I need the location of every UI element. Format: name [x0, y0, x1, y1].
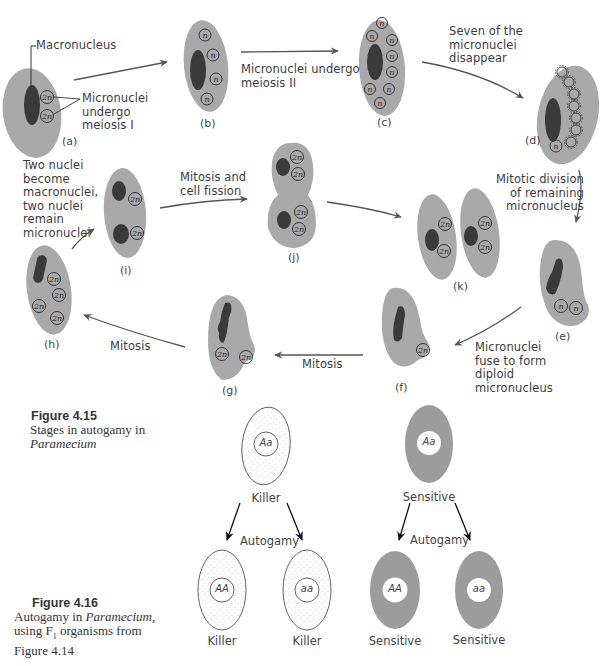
stage-label-k: (k) [453, 280, 468, 293]
stage-label-i: (i) [120, 264, 132, 277]
svg-text:n: n [380, 19, 385, 28]
label-two-nuclei: Two nuclei become macronuclei, two nucle… [23, 159, 98, 240]
genotype-parent-killer: Aa [256, 437, 276, 448]
genotype-parent-sensitive: Aa [419, 436, 439, 447]
genotype-offspring-2: aa [295, 583, 319, 594]
figure-4-15-caption-line1: Stages in autogamy in [30, 423, 145, 437]
cell-stage-c: nn nn nn nn [356, 18, 409, 118]
label-mitosis-fission: Mitosis and cell fission [180, 171, 246, 198]
svg-text:n: n [370, 32, 375, 41]
svg-text:n: n [558, 302, 563, 311]
cell-stage-f: 2n [382, 288, 430, 367]
svg-text:2n: 2n [33, 302, 44, 311]
svg-text:n: n [368, 85, 373, 94]
svg-text:2n: 2n [291, 153, 302, 162]
cell-stage-d: n [528, 60, 607, 170]
label-seven-disappear: Seven of the micronuclei disappear [449, 25, 523, 66]
svg-text:n: n [210, 51, 215, 60]
svg-text:2n: 2n [479, 243, 490, 252]
svg-text:n: n [390, 68, 395, 77]
phenotype-offspring-4: Sensitive [448, 633, 510, 647]
svg-text:2n: 2n [41, 112, 52, 121]
svg-text:2n: 2n [51, 314, 62, 323]
svg-text:n: n [573, 304, 578, 313]
svg-text:2n: 2n [439, 220, 450, 229]
svg-text:n: n [390, 52, 395, 61]
svg-text:n: n [202, 31, 207, 40]
svg-text:n: n [213, 75, 218, 84]
cell-stage-h: 2n2n 2n2n [21, 242, 77, 337]
phenotype-offspring-1: Killer [199, 634, 245, 648]
cell-stage-j: 2n2n 2n2n [268, 143, 316, 248]
genotype-offspring-4: aa [467, 583, 491, 594]
svg-text:n: n [390, 36, 395, 45]
svg-text:n: n [378, 99, 383, 108]
stage-label-d: (d) [525, 134, 541, 147]
label-meiosis-2: Micronuclei undergo meiosis II [241, 63, 360, 90]
stage-label-b: (b) [200, 117, 216, 130]
stage-label-f: (f) [395, 381, 407, 394]
svg-text:2n: 2n [240, 353, 251, 362]
svg-text:2n: 2n [438, 247, 449, 256]
label-fuse-diploid: Micronuclei fuse to form diploid micronu… [475, 341, 553, 395]
arrow-killer-to-AA [227, 503, 240, 540]
phenotype-parent-sensitive: Sensitive [398, 490, 460, 504]
cell-stage-i: 2n2n [101, 167, 149, 260]
svg-text:2n: 2n [292, 170, 303, 179]
cell-stage-g: 2n2n [208, 295, 255, 380]
svg-text:2n: 2n [53, 291, 64, 300]
arrow-j-to-k [327, 202, 401, 217]
genotype-offspring-1: AA [210, 583, 234, 594]
label-macronucleus: Macronucleus [36, 39, 116, 53]
arrow-sensitive-to-AA [399, 503, 410, 540]
label-mitosis-f-g: Mitosis [302, 358, 343, 372]
svg-text:2n: 2n [216, 350, 227, 359]
figure-4-16-caption-line3: Figure 4.14 [14, 644, 155, 658]
svg-text:2n: 2n [41, 93, 52, 102]
figure-4-16-caption-line1: Autogamy in [14, 609, 86, 624]
arrow-b-to-c [241, 51, 338, 52]
cell-stage-k: 2n2n 2n2n [412, 186, 505, 282]
figure-4-16-caption-italic: Paramecium, [86, 609, 156, 624]
label-autogamy-sensitive: Autogamy [410, 533, 469, 547]
svg-text:2n: 2n [293, 225, 304, 234]
svg-text:2n: 2n [479, 219, 490, 228]
svg-text:n: n [204, 95, 209, 104]
arrow-c-to-d [422, 62, 523, 98]
arrow-i-to-j [160, 199, 247, 208]
stage-label-c: (c) [377, 116, 392, 129]
figure-4-16-caption-line2b: organisms from [57, 623, 142, 638]
phenotype-parent-killer: Killer [243, 491, 289, 505]
label-mitosis-g-h: Mitosis [110, 340, 151, 354]
stage-label-j: (j) [288, 251, 300, 264]
svg-text:2n: 2n [129, 195, 140, 204]
genotype-offspring-3: AA [383, 583, 407, 594]
figure-4-15-caption: Figure 4.15 Stages in autogamy in Parame… [30, 409, 145, 451]
stage-label-e: (e) [555, 330, 570, 343]
phenotype-offspring-3: Sensitive [364, 634, 426, 648]
phenotype-offspring-2: Killer [284, 634, 330, 648]
svg-text:2n: 2n [48, 275, 59, 284]
svg-text:n: n [387, 85, 392, 94]
arrow-a-to-b [74, 62, 167, 80]
stage-label-a: (a) [62, 135, 77, 148]
label-autogamy-killer: Autogamy [240, 534, 299, 548]
cell-stage-b: nn nn [179, 18, 232, 114]
figure-4-15-caption-line2: Paramecium [30, 436, 96, 451]
svg-text:2n: 2n [295, 208, 306, 217]
figure-4-16-caption-line2: using F [14, 623, 53, 638]
cell-stage-e: nn [540, 240, 589, 326]
label-mitotic-division: Mitotic division of remaining micronucle… [496, 173, 584, 214]
svg-text:2n: 2n [417, 346, 428, 355]
figure-4-15-number: Figure 4.15 [31, 409, 97, 423]
stage-label-g: (g) [222, 384, 238, 397]
stage-label-h: (h) [44, 338, 60, 351]
svg-text:2n: 2n [131, 229, 142, 238]
figure-4-16-caption: Figure 4.16 Autogamy in Paramecium, usin… [14, 596, 155, 658]
figure-4-16-number: Figure 4.16 [32, 596, 98, 610]
svg-text:n: n [554, 142, 559, 151]
label-meiosis-1: Micronuclei undergo meiosis I [82, 92, 148, 133]
